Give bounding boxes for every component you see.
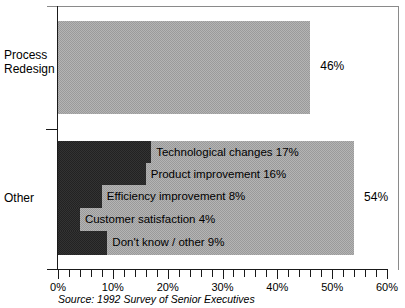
x-axis-minor-tick bbox=[299, 270, 300, 277]
chart-frame-right-border bbox=[398, 6, 399, 270]
x-axis-minor-tick bbox=[266, 270, 267, 277]
x-axis-tick-label: 0% bbox=[38, 281, 78, 293]
x-axis-tick-label: 60% bbox=[367, 281, 405, 293]
x-axis-tick-label: 50% bbox=[312, 281, 352, 293]
x-axis-minor-tick bbox=[91, 270, 92, 277]
x-axis-minor-tick bbox=[321, 270, 322, 277]
bar-value-other: 54% bbox=[364, 191, 388, 204]
bar-value-process-redesign: 46% bbox=[320, 60, 344, 73]
horizontal-bar-chart: Process Redesign Other 46% 54% Technolog… bbox=[0, 0, 405, 308]
x-axis-minor-tick bbox=[365, 270, 366, 277]
segment-label-technological-changes: Technological changes 17% bbox=[156, 146, 299, 159]
segment-label-efficiency-improvement: Efficiency improvement 8% bbox=[107, 190, 245, 203]
segment-bar-customer-satisfaction bbox=[58, 208, 80, 231]
category-label-line-2: Redesign bbox=[4, 62, 55, 76]
x-axis-minor-tick bbox=[69, 270, 70, 277]
category-label-line-1: Process bbox=[4, 48, 55, 62]
x-axis-major-tick bbox=[223, 270, 224, 279]
x-axis-minor-tick bbox=[376, 270, 377, 277]
x-axis-minor-tick bbox=[124, 270, 125, 277]
x-axis-line bbox=[47, 269, 388, 270]
x-axis-minor-tick bbox=[190, 270, 191, 277]
bar-process-redesign bbox=[58, 21, 310, 114]
x-axis-minor-tick bbox=[102, 270, 103, 277]
segment-label-dont-know-other: Don't know / other 9% bbox=[112, 236, 224, 249]
x-axis-minor-tick bbox=[233, 270, 234, 277]
x-axis-minor-tick bbox=[310, 270, 311, 277]
x-axis-minor-tick bbox=[343, 270, 344, 277]
x-axis-tick-label: 10% bbox=[93, 281, 133, 293]
category-label-process-redesign: Process Redesign bbox=[4, 48, 55, 76]
x-axis-minor-tick bbox=[255, 270, 256, 277]
source-caption: Source: 1992 Survey of Senior Executives bbox=[58, 293, 255, 305]
x-axis-major-tick bbox=[277, 270, 278, 279]
segment-label-product-improvement: Product improvement 16% bbox=[151, 168, 287, 181]
x-axis-minor-tick bbox=[288, 270, 289, 277]
x-axis-major-tick bbox=[387, 270, 388, 279]
x-axis-major-tick bbox=[332, 270, 333, 279]
category-divider-tick bbox=[46, 129, 58, 130]
x-axis-tick-label: 20% bbox=[148, 281, 188, 293]
x-axis-minor-tick bbox=[179, 270, 180, 277]
category-label-other: Other bbox=[4, 191, 34, 205]
segment-bar-product-improvement bbox=[58, 163, 146, 185]
x-axis-major-tick bbox=[168, 270, 169, 279]
x-axis-minor-tick bbox=[135, 270, 136, 277]
x-axis-minor-tick bbox=[212, 270, 213, 277]
segment-bar-dont-know-other bbox=[58, 231, 107, 255]
x-axis-minor-tick bbox=[80, 270, 81, 277]
x-axis-minor-tick bbox=[146, 270, 147, 277]
x-axis-tick-label: 30% bbox=[203, 281, 243, 293]
chart-frame-top-border bbox=[47, 6, 399, 7]
x-axis-major-tick bbox=[113, 270, 114, 279]
x-axis-major-tick bbox=[58, 270, 59, 279]
segment-bar-efficiency-improvement bbox=[58, 185, 102, 208]
x-axis-minor-tick bbox=[201, 270, 202, 277]
x-axis-tick-label: 40% bbox=[257, 281, 297, 293]
x-axis-minor-tick bbox=[354, 270, 355, 277]
x-axis-minor-tick bbox=[157, 270, 158, 277]
segment-bar-technological-changes bbox=[58, 141, 151, 163]
segment-label-customer-satisfaction: Customer satisfaction 4% bbox=[85, 213, 215, 226]
category-label-line-1: Other bbox=[4, 191, 34, 205]
x-axis-minor-tick bbox=[244, 270, 245, 277]
